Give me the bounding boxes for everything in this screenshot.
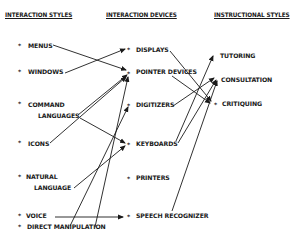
style-natural-line2: LANGUAGE [34,183,71,194]
bullet-icon: * [18,173,21,180]
style-direct-manipulation: DIRECT MANIPULATION [27,222,106,233]
bullet-icon: * [127,102,130,109]
bullet-icon: * [127,175,130,182]
link-menus-pointer [53,45,126,70]
style-menus: MENUS [28,41,53,52]
bullet-icon: * [127,70,130,77]
style-voice: VOICE [26,211,47,222]
bullet-icon: * [18,42,21,49]
device-speech-recognizer: SPEECH RECOGNIZER [136,211,208,222]
device-keyboards: KEYBOARDS [136,139,178,150]
bullet-icon: * [18,139,21,146]
bullet-icon: * [127,46,130,53]
device-displays: DISPLAYS [136,45,169,56]
device-printers: PRINTERS [136,173,170,184]
bullet-icon: * [214,101,217,108]
device-pointer-devices: POINTER DEVICES [136,67,197,78]
style-command-line1: COMMAND [28,100,65,111]
interaction-diagram: INTERACTION STYLES INTERACTION DEVICES I… [0,0,302,242]
bullet-icon: * [18,223,21,230]
bullet-icon: * [18,68,21,75]
bullet-icon: * [127,141,130,148]
instructional-critiquing: CRITIQUING [222,99,262,110]
link-natural-keyboards [74,146,125,188]
instructional-tutoring: TUTORING [220,51,255,62]
style-natural-line1: NATURAL [26,172,58,183]
style-windows: WINDOWS [28,67,63,78]
bullet-icon: * [18,212,21,219]
device-digitizers: DIGITIZERS [136,100,174,111]
style-icons: ICONS [28,139,49,150]
bullet-icon: * [127,213,130,220]
style-command-line2: LANGUAGES [38,111,79,122]
instructional-consultation: CONSULTATION [221,75,272,86]
link-command-pointer [78,75,127,115]
link-speech-consultation [172,81,217,211]
bullet-icon: * [18,100,21,107]
